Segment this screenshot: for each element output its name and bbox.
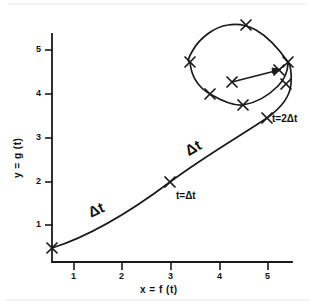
marker-t2 <box>262 113 272 123</box>
x-tick-label-1: 1 <box>71 271 76 281</box>
plot-svg <box>0 0 316 304</box>
x-tick-label-5: 5 <box>265 271 270 281</box>
y-tick-label-2: 2 <box>36 176 41 186</box>
y-tick-label-4: 4 <box>36 88 41 98</box>
figure-canvas: 1 2 3 4 5 1 2 3 4 5 y = g (t) x = f (t) … <box>0 0 316 304</box>
marker-loop-lower-left <box>205 89 215 99</box>
scan-speckle-top <box>8 3 308 5</box>
x-tick-label-2: 2 <box>119 271 124 281</box>
x-tick-label-4: 4 <box>217 271 222 281</box>
y-tick-label-1: 1 <box>36 219 41 229</box>
marker-t1 <box>165 177 175 187</box>
scan-speckle-bottom <box>6 299 310 301</box>
data-point-markers <box>47 20 293 253</box>
x-axis-title: x = f (t) <box>140 284 178 295</box>
t-one-label: t=Δt <box>176 190 196 201</box>
axis-lines <box>52 34 292 262</box>
t-two-label: t=2Δt <box>272 113 297 124</box>
marker-arrow-tail <box>227 77 237 87</box>
marker-loop-upper-right <box>281 79 291 89</box>
inner-arrow-shaft <box>232 70 279 82</box>
trajectory-curve <box>52 24 291 248</box>
x-tick-label-3: 3 <box>168 271 173 281</box>
x-axis-ticks <box>74 262 268 270</box>
y-tick-label-5: 5 <box>36 44 41 54</box>
y-tick-label-3: 3 <box>36 132 41 142</box>
y-axis-title: y = g (t) <box>12 138 23 178</box>
